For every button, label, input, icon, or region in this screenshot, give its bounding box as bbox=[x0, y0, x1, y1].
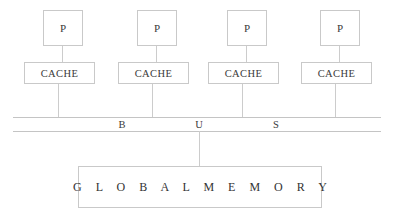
cache-node-2: CACHE bbox=[118, 62, 189, 84]
processor-node-2: P bbox=[137, 10, 177, 46]
global-memory-label: G L O B A L M E M O R Y bbox=[68, 180, 333, 195]
processor-label: P bbox=[154, 22, 160, 34]
cache-label: CACHE bbox=[225, 68, 263, 79]
cache-bus-connector-2 bbox=[152, 84, 153, 118]
cache-node-4: CACHE bbox=[301, 62, 372, 84]
cache-node-1: CACHE bbox=[24, 62, 95, 84]
processor-label: P bbox=[337, 22, 343, 34]
cache-bus-connector-3 bbox=[242, 84, 243, 118]
processor-cache-connector-1 bbox=[62, 46, 63, 62]
processor-cache-connector-2 bbox=[156, 46, 157, 62]
cache-node-3: CACHE bbox=[208, 62, 279, 84]
shared-bus-multiprocessor-diagram: P P P P CACHE CACHE CACHE CACHE B U S G … bbox=[0, 0, 395, 216]
processor-cache-connector-4 bbox=[339, 46, 340, 62]
cache-bus-connector-4 bbox=[335, 84, 336, 118]
processor-node-4: P bbox=[320, 10, 360, 46]
cache-bus-connector-1 bbox=[58, 84, 59, 118]
bus-memory-connector bbox=[199, 131, 200, 167]
cache-label: CACHE bbox=[41, 68, 79, 79]
processor-cache-connector-3 bbox=[246, 46, 247, 62]
processor-label: P bbox=[244, 22, 250, 34]
bus-letter-u: U bbox=[193, 118, 205, 131]
bus-letter-b: B bbox=[116, 118, 128, 131]
cache-label: CACHE bbox=[135, 68, 173, 79]
global-memory-node: G L O B A L M E M O R Y bbox=[78, 166, 322, 208]
cache-label: CACHE bbox=[318, 68, 356, 79]
processor-label: P bbox=[60, 22, 66, 34]
bus-letter-s: S bbox=[270, 118, 282, 131]
processor-node-3: P bbox=[227, 10, 267, 46]
processor-node-1: P bbox=[43, 10, 83, 46]
bus-line-bottom bbox=[13, 131, 381, 132]
